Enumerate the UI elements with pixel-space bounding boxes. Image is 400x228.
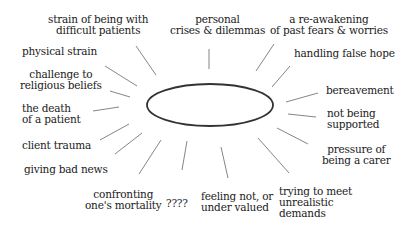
spoke-physical-strain: [105, 66, 137, 86]
node-client-trauma: client trauma: [22, 140, 91, 151]
node-label-line: physical strain: [22, 46, 97, 57]
spoke-unknown: [182, 141, 187, 170]
spoke-confronting-mortality: [139, 140, 161, 174]
node-label-line: of past fears & worries: [270, 25, 388, 36]
spoke-client-trauma: [100, 124, 129, 140]
node-unrealistic-demands: trying to meetunrealisticdemands: [279, 186, 352, 219]
spoke-giving-bad-news: [115, 133, 142, 154]
spoke-challenge-religious-beliefs: [110, 91, 130, 97]
spoke-reawakening-fears: [256, 44, 274, 71]
node-label-line: one's mortality: [85, 200, 162, 211]
spoke-handling-false-hope: [272, 66, 290, 87]
node-label-line: crises & dilemmas: [170, 25, 265, 36]
node-strain-difficult-patients: strain of being withdifficult patients: [48, 14, 148, 36]
spoke-unrealistic-demands: [258, 138, 289, 173]
central-ellipse: [147, 84, 273, 126]
stress-spider-diagram: strain of being withdifficult patientspe…: [0, 0, 400, 228]
spoke-not-being-supported: [288, 114, 316, 117]
node-physical-strain: physical strain: [22, 46, 97, 57]
node-feeling-not-valued: feeling not, orunder valued: [201, 191, 273, 213]
node-label-line: bereavement: [326, 85, 394, 96]
node-personal-crises: personalcrises & dilemmas: [170, 14, 265, 36]
node-handling-false-hope: handling false hope: [294, 48, 395, 59]
node-bereavement: bereavement: [326, 85, 394, 96]
node-label-line: difficult patients: [48, 25, 148, 36]
node-label-line: giving bad news: [24, 164, 108, 175]
node-giving-bad-news: giving bad news: [24, 164, 108, 175]
spoke-feeling-not-valued: [221, 147, 228, 178]
node-challenge-religious-beliefs: challenge toreligious beliefs: [20, 69, 102, 91]
spoke-death-of-patient: [93, 107, 119, 111]
node-pressure-of-carer: pressure ofbeing a carer: [322, 144, 391, 166]
node-label-line: demands: [279, 208, 352, 219]
node-label-line: client trauma: [22, 140, 91, 151]
node-label-line: handling false hope: [294, 48, 395, 59]
node-confronting-mortality: confrontingone's mortality: [85, 189, 162, 211]
spoke-pressure-of-carer: [277, 128, 308, 144]
spoke-bereavement: [286, 93, 318, 102]
spokes: [93, 44, 318, 178]
node-not-being-supported: not beingsupported: [327, 108, 379, 130]
spoke-strain-difficult-patients: [136, 46, 156, 75]
node-label-line: under valued: [201, 202, 273, 213]
node-unknown: ????: [166, 198, 188, 209]
node-label-line: ????: [166, 198, 188, 209]
node-label-line: being a carer: [322, 155, 391, 166]
node-label-line: of a patient: [22, 114, 81, 125]
node-death-of-patient: the deathof a patient: [22, 103, 81, 125]
node-label-line: supported: [327, 119, 379, 130]
node-label-line: religious beliefs: [20, 80, 102, 91]
node-reawakening-fears: a re-awakeningof past fears & worries: [270, 14, 388, 36]
